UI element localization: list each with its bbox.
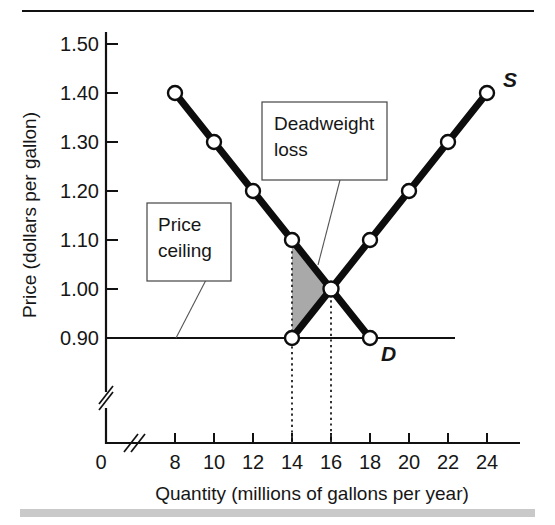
price-ceiling-callout-line1: Price	[158, 214, 201, 235]
price-ceiling-callout-line2: ceiling	[158, 240, 212, 261]
deadweight-loss-leader-line	[318, 180, 340, 265]
y-tick-label-1-40: 1.40	[60, 82, 99, 104]
economics-figure: 1.50 1.40 1.30 1.20 1.10 1.00 0.90 8 10 …	[0, 0, 555, 525]
y-tick-label-1-50: 1.50	[60, 33, 99, 55]
x-tick-label-14: 14	[281, 451, 303, 473]
x-tick-label-18: 18	[359, 451, 381, 473]
y-tick-label-1-30: 1.30	[60, 131, 99, 153]
demand-curve-label: D	[381, 342, 396, 365]
deadweight-loss-callout-line2: loss	[274, 139, 308, 160]
price-ceiling-leader-line	[176, 280, 206, 338]
x-tick-label-12: 12	[242, 451, 264, 473]
supply-curve-label: S	[503, 68, 517, 91]
x-axis-title: Quantity (millions of gallons per year)	[155, 483, 469, 504]
x-tick-label-10: 10	[203, 451, 225, 473]
equilibrium-point	[324, 282, 339, 297]
deadweight-loss-callout-line1: Deadweight	[274, 113, 375, 134]
origin-label: 0	[95, 451, 106, 473]
x-tick-label-24: 24	[476, 451, 498, 473]
x-tick-label-16: 16	[320, 451, 342, 473]
y-tick-label-1-00: 1.00	[60, 278, 99, 300]
x-tick-label-8: 8	[169, 451, 180, 473]
y-tick-label-1-20: 1.20	[60, 180, 99, 202]
y-axis-ticks	[106, 44, 118, 338]
x-tick-label-20: 20	[398, 451, 420, 473]
y-axis-title: Price (dollars per gallon)	[19, 112, 40, 318]
x-tick-label-22: 22	[437, 451, 459, 473]
y-tick-label-1-10: 1.10	[60, 229, 99, 251]
y-tick-label-0-90: 0.90	[60, 327, 99, 349]
x-axis-line	[106, 408, 520, 443]
chart-canvas: 1.50 1.40 1.30 1.20 1.10 1.00 0.90 8 10 …	[0, 0, 555, 525]
